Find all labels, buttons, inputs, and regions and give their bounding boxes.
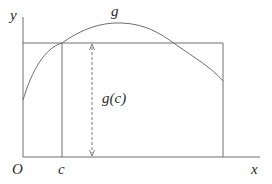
curve-g: [23, 23, 223, 100]
mean-value-diagram: y x O c g g(c): [0, 0, 272, 184]
origin-label: O: [12, 161, 23, 177]
curve-g-label: g: [111, 3, 119, 19]
c-label: c: [58, 161, 65, 177]
gc-height-label: g(c): [102, 90, 126, 107]
x-axis-label: x: [250, 161, 258, 177]
y-axis-label: y: [8, 7, 17, 23]
